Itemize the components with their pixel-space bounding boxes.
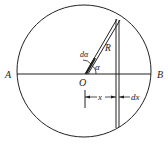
- x-arrow-left-head: [85, 96, 90, 99]
- angle-wedge: [86, 58, 95, 74]
- label-x: x: [97, 92, 102, 102]
- label-a: A: [4, 69, 12, 80]
- x-arrow-right-head: [111, 96, 116, 99]
- label-dx: dx: [131, 92, 140, 102]
- label-b: B: [157, 69, 163, 80]
- dalpha-arc: [83, 60, 91, 64]
- label-dalpha: dα: [80, 50, 89, 59]
- label-alpha: α: [95, 62, 100, 72]
- label-r: R: [104, 43, 111, 53]
- circle-outline: [17, 5, 151, 137]
- dx-arrow-head: [119, 96, 124, 99]
- label-o: O: [79, 77, 86, 88]
- circle-strip-diagram: A B O R α dα x dx: [0, 0, 168, 152]
